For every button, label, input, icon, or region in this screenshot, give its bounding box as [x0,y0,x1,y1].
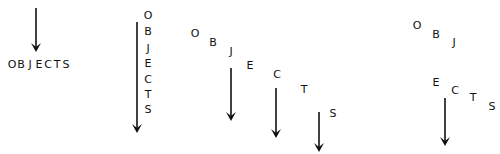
letter-s: S [489,100,496,113]
letter-s: S [145,103,152,116]
letter-b: B [17,58,25,71]
letter-j: J [228,45,232,58]
panel-horizontal-word-below-arrow: OBJECTS [8,8,70,71]
panel-diagonal-word-with-three-arrows: OBJECTS [191,27,337,152]
letter-e: E [247,59,254,72]
letter-o: O [413,19,422,32]
letter-c: C [451,84,459,97]
letter-t: T [469,91,477,104]
down-arrow-icon [440,98,450,146]
letter-j: J [145,42,149,55]
letter-j: J [27,58,31,71]
letter-j: J [451,36,455,49]
down-arrow-icon [132,22,142,133]
letter-o: O [144,9,153,22]
letter-c: C [144,73,152,86]
letter-s: S [330,107,337,120]
letter-t: T [53,58,61,71]
letter-o: O [8,58,17,71]
letter-c: C [273,68,281,81]
down-arrow-icon [226,68,236,121]
letter-s: S [63,58,70,71]
panel-vertical-word-beside-arrow: OBJECTS [132,9,153,133]
letter-b: B [432,28,440,41]
letter-e: E [433,76,440,89]
objects-arrows-diagram: OBJECTSOBJECTSOBJECTSOBJECTS [0,0,500,154]
letter-c: C [44,58,52,71]
letter-b: B [144,25,152,38]
letter-t: T [144,88,152,101]
down-arrow-icon [271,88,281,138]
letter-e: E [36,58,43,71]
panel-split-word-with-one-arrow: OBJECTS [413,19,496,146]
letter-o: O [191,27,200,40]
letter-b: B [209,36,217,49]
down-arrow-icon [314,112,324,152]
down-arrow-icon [31,8,41,52]
letter-e: E [145,57,152,70]
letter-t: T [300,83,308,96]
diagram-canvas: OBJECTSOBJECTSOBJECTSOBJECTS [0,0,500,154]
